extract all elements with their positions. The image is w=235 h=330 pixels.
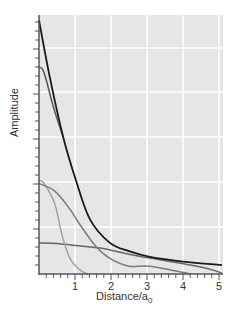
x-tick-label: 3 xyxy=(137,280,157,292)
y-axis-label: Amplitude xyxy=(8,88,20,137)
x-tick-label: 4 xyxy=(173,280,193,292)
x-axis-label: Distance/a0 xyxy=(96,290,152,305)
plot-background xyxy=(39,15,223,274)
x-tick-label: 5 xyxy=(209,280,229,292)
x-tick-label: 1 xyxy=(65,280,85,292)
x-tick-label: 2 xyxy=(101,280,121,292)
